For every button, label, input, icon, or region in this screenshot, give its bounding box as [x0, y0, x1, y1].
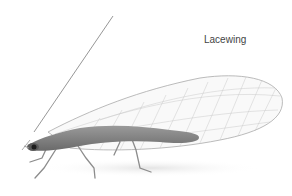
species-label: Lacewing [204, 34, 246, 45]
ground-shadow [40, 159, 260, 177]
lacewing-illustration [0, 0, 292, 196]
eye [32, 145, 37, 150]
